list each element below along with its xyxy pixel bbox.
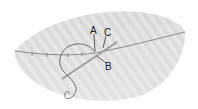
suture-diagram: A C B bbox=[0, 0, 198, 109]
label-c: C bbox=[104, 28, 111, 38]
diagram-drawing bbox=[0, 0, 198, 109]
label-a: A bbox=[90, 26, 97, 36]
label-b: B bbox=[105, 62, 112, 72]
